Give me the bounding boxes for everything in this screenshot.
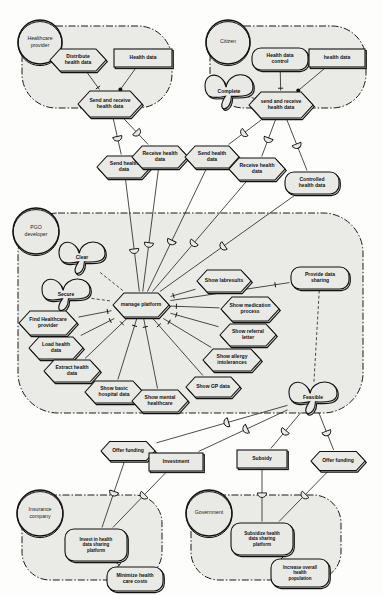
dependency-glyph <box>223 418 230 428</box>
actor-citizen[interactable]: Citizen <box>206 20 250 66</box>
node-label: intolerances <box>217 359 247 365</box>
dependency-glyph <box>113 136 123 142</box>
goal-model-svg: HealthcareproviderCitizenPGOdeveloperIns… <box>0 0 383 595</box>
actor-label: Government <box>195 509 224 515</box>
node-label: control <box>272 58 290 64</box>
node-label: Distribute <box>66 53 90 59</box>
node-label: Investment <box>163 458 190 464</box>
dependum-half-circle <box>239 128 248 138</box>
node-label: healthcare <box>147 400 172 406</box>
node-label: platform <box>253 542 271 547</box>
node-label: data sharing <box>83 542 110 547</box>
node-label: Invest in health <box>80 537 113 542</box>
node-label: Load health <box>42 341 70 347</box>
node-investment[interactable]: Investment <box>149 453 204 473</box>
node-health-data-hp[interactable]: Health data <box>114 49 173 69</box>
node-label: health data <box>268 104 295 110</box>
dependency-glyph <box>322 430 332 438</box>
node-health-data-control[interactable]: Health datacontrol <box>252 48 309 72</box>
node-show-medication-process[interactable]: Show medicationprocess <box>221 297 280 323</box>
node-label: Send and receive <box>89 97 130 103</box>
actor-label: provider <box>31 42 50 48</box>
node-increase-overall-health-population[interactable]: Increase overallhealthpopulation <box>271 559 330 589</box>
node-label: Secure <box>58 291 75 297</box>
dependum-half-circle <box>322 430 332 438</box>
dependency-glyph <box>239 128 248 138</box>
node-label: Clear <box>76 254 89 260</box>
node-label: Show referral <box>232 328 265 334</box>
node-find-healthcare-provider[interactable]: Find Healthcareprovider <box>19 311 78 337</box>
node-label: process <box>240 308 259 314</box>
node-provide-data-sharing[interactable]: Provide datasharing <box>291 267 350 291</box>
node-show-allergy-intolerances[interactable]: Show allergyintolerances <box>203 349 262 373</box>
node-label: Receive health <box>142 150 177 156</box>
node-show-gp-data[interactable]: Show GP data <box>186 377 241 399</box>
dependum-half-circle <box>292 142 302 150</box>
node-label: provider <box>38 322 58 328</box>
actor-label: company <box>29 513 50 519</box>
node-label: data sharing <box>249 536 276 541</box>
node-label: send and receive <box>261 98 302 104</box>
actor-label: developer <box>25 231 48 237</box>
node-show-referral-letter[interactable]: Show referralletter <box>220 324 277 348</box>
node-label: health data <box>299 182 326 188</box>
node-label: Subsidy <box>252 455 272 461</box>
node-health-data-citizen[interactable]: health data <box>309 49 366 69</box>
node-label: Show GP data <box>196 383 230 389</box>
node-label: data <box>155 156 166 162</box>
node-label: manage platform <box>121 301 162 307</box>
node-offer-funding-right[interactable]: Offer funding <box>311 452 366 473</box>
node-send-and-receive-health-data-hp[interactable]: Send and receivehealth data <box>78 91 143 119</box>
node-label: sharing <box>311 277 329 283</box>
node-label: Send health <box>198 150 226 156</box>
node-load-health-data[interactable]: Load healthdata <box>29 337 84 361</box>
node-label: Complete <box>218 88 241 94</box>
node-receive-health-data-right[interactable]: Receive healthdata <box>229 158 286 182</box>
dependum-half-circle <box>263 136 273 144</box>
node-show-labresults[interactable]: Show labresults <box>197 270 252 294</box>
node-label: health <box>293 570 307 575</box>
node-controlled-health-data[interactable]: Controlledhealth data <box>285 172 340 196</box>
node-label: health data <box>324 54 351 60</box>
node-label: data <box>119 166 130 172</box>
node-show-mental-healthcare[interactable]: Show mentalhealthcare <box>132 390 189 414</box>
actor-insurance-company[interactable]: Insurancecompany <box>17 490 63 538</box>
node-receive-health-data-left[interactable]: Receive healthdata <box>132 146 189 170</box>
dependum-half-circle <box>241 424 249 434</box>
actor-label: Citizen <box>220 38 236 44</box>
node-subsidize-health-data-sharing-platform[interactable]: Subsidize healthdata sharingplatform <box>231 523 294 557</box>
node-extract-health-data[interactable]: Extract healthdata <box>44 360 101 384</box>
node-distribute-health-data[interactable]: Distributehealth data <box>50 49 107 73</box>
node-label: Offer funding <box>322 457 354 463</box>
node-label: health data <box>97 103 124 109</box>
node-label: Feasible <box>303 394 323 400</box>
actor-pgo-developer[interactable]: PGOdeveloper <box>13 208 59 256</box>
dependum-half-circle <box>113 136 123 142</box>
dependum-half-circle <box>223 418 230 428</box>
node-label: population <box>289 576 312 581</box>
dependency-glyph <box>263 136 273 144</box>
diagram-canvas: HealthcareproviderCitizenPGOdeveloperIns… <box>0 0 383 595</box>
node-label: Increase overall <box>283 565 317 570</box>
node-label: data <box>207 156 218 162</box>
actor-government[interactable]: Government <box>186 490 232 538</box>
node-subsidy[interactable]: Subsidy <box>237 450 288 470</box>
node-minimize-health-care-costs[interactable]: Minimize healthcare costs <box>107 567 164 593</box>
node-offer-funding-left[interactable]: Offer funding <box>101 442 156 463</box>
actor-label: Healthcare <box>27 35 52 41</box>
node-label: Extract health <box>55 364 88 370</box>
node-manage-platform[interactable]: manage platform <box>113 293 170 319</box>
node-label: Subsidize health <box>244 531 280 536</box>
dependum-half-circle <box>279 428 289 437</box>
node-invest-in-health-data-sharing-platform[interactable]: Invest in healthdata sharingplatform <box>65 529 128 563</box>
dependency-glyph <box>241 424 249 434</box>
node-label: health data <box>65 59 92 65</box>
node-label: Show labresults <box>205 277 244 283</box>
node-label: Health data <box>267 52 294 58</box>
node-label: data <box>67 370 78 376</box>
node-label: data <box>252 168 263 174</box>
node-send-and-receive-health-data-citizen[interactable]: send and receivehealth data <box>249 92 314 120</box>
node-label: platform <box>87 548 105 553</box>
node-label: Offer funding <box>112 447 144 453</box>
dependency-glyph <box>292 142 302 150</box>
